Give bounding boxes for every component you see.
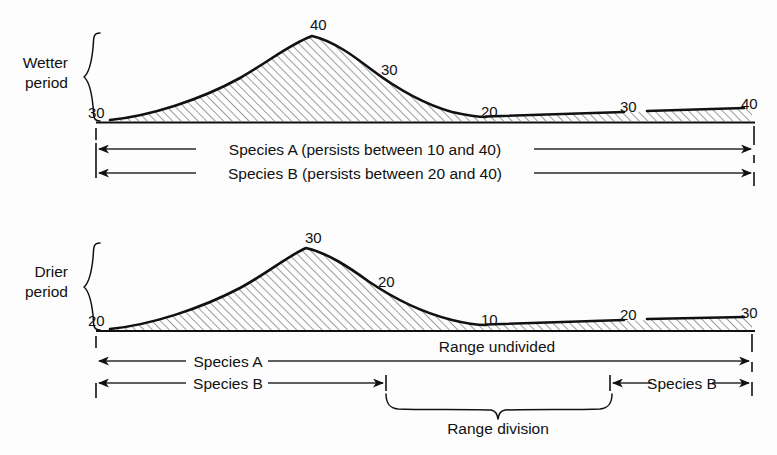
figure-container: 30 40 30 20 30 40 Wetter period Species … (0, 0, 777, 455)
drier-label-foot: 10 (481, 311, 498, 328)
range-division-brace (386, 394, 612, 419)
wetter-label-foot: 20 (481, 103, 498, 120)
span-species-b-wetter-label: Species B (persists between 20 and 40) (228, 165, 502, 182)
wetter-label-left-origin: 30 (88, 104, 105, 121)
span-species-a-wetter: Species A (persists between 10 and 40) (99, 141, 751, 158)
span-species-b-drier-left-label: Species B (193, 375, 263, 392)
wetter-label-right-end: 40 (741, 95, 758, 112)
span-species-a-wetter-label: Species A (persists between 10 and 40) (229, 141, 501, 158)
species-range-diagram: 30 40 30 20 30 40 Wetter period Species … (0, 0, 777, 455)
range-undivided-label: Range undivided (439, 338, 555, 355)
wetter-area-hatch (110, 36, 752, 121)
drier-label-mid-flat: 20 (620, 306, 637, 323)
wetter-label-mid-flat: 30 (620, 98, 637, 115)
range-division-label: Range division (447, 420, 549, 437)
span-species-b-drier-left: Species B (99, 375, 386, 392)
span-species-b-drier-right: Species B (610, 375, 749, 392)
drier-period-label-line1: Drier (34, 263, 68, 280)
drier-period-label-line2: period (25, 283, 68, 300)
wetter-label-peak: 40 (310, 16, 327, 33)
drier-label-left-origin: 20 (88, 312, 105, 329)
wetter-period-label-line2: period (25, 74, 68, 91)
span-species-b-drier-right-label: Species B (647, 375, 717, 392)
span-species-b-wetter: Species B (persists between 20 and 40) (99, 165, 751, 182)
drier-label-peak: 30 (305, 229, 322, 246)
span-species-a-drier-label: Species A (194, 353, 264, 370)
panel-wetter-period: 30 40 30 20 30 40 Wetter period Species … (23, 16, 758, 186)
span-species-a-drier: Species A (99, 353, 749, 370)
drier-label-descending: 20 (378, 273, 395, 290)
wetter-period-label-line1: Wetter (23, 54, 68, 71)
panel-drier-period: 20 30 20 10 20 30 Drier period Range und… (25, 229, 758, 437)
wetter-label-descending: 30 (381, 61, 398, 78)
drier-label-right-end: 30 (741, 304, 758, 321)
